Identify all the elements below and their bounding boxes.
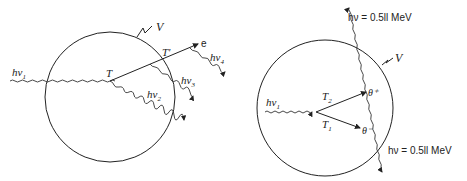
label-electron: e: [201, 38, 207, 49]
label-annihilation-top: hν = 0.5ll MeV: [348, 12, 412, 23]
label-annihilation-bottom: hν = 0.5ll MeV: [388, 145, 452, 156]
incident-photon-wave-right: [265, 111, 312, 113]
label-hv1-right: hν1: [266, 96, 280, 111]
label-T: T: [106, 67, 113, 79]
label-T-prime: T': [162, 46, 171, 58]
label-hv3: hν3: [181, 74, 195, 89]
right-panel: hν1 T2 T1 θ⁺ θ⁻ V hν = 0.5ll MeV hν = 0.…: [257, 8, 452, 176]
volume-pointer-right: [382, 58, 393, 65]
label-volume-right: V: [395, 51, 404, 65]
label-T2: T2: [322, 90, 332, 105]
label-hv4: hν4: [210, 51, 224, 66]
label-T1: T1: [322, 118, 332, 133]
diagram-canvas: hν1 T T' e V hν2 hν3 hν4 hν1 T2 T1 θ⁺ θ⁻…: [0, 0, 467, 181]
label-hv1-left: hν1: [12, 66, 26, 81]
label-electron-right: θ⁻: [362, 125, 373, 136]
left-panel: hν1 T T' e V hν2 hν3 hν4: [10, 20, 225, 162]
label-volume-left: V: [156, 20, 165, 34]
label-hv2: hν2: [147, 88, 161, 103]
label-positron: θ⁺: [368, 87, 379, 98]
volume-pointer-left: [137, 26, 152, 37]
